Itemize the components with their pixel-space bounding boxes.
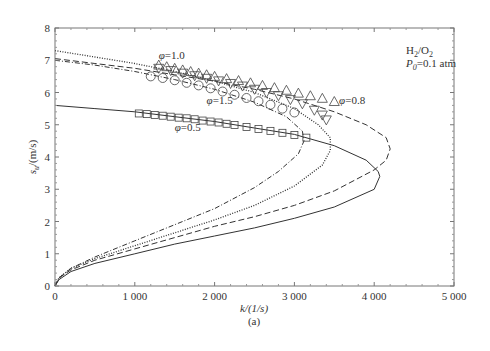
y-tick-label: 2	[45, 216, 51, 228]
annotation: P0=0.1 atm	[405, 57, 456, 72]
data-marker	[146, 72, 155, 81]
data-marker	[269, 83, 279, 92]
annotation: φ=1.5	[207, 94, 234, 106]
data-marker	[135, 110, 142, 117]
subtitle: (a)	[248, 315, 261, 328]
x-tick-label: 3 000	[282, 290, 307, 302]
y-tick-label: 4	[45, 151, 51, 163]
y-tick-label: 8	[45, 22, 51, 34]
annotation: φ=0.5	[175, 121, 202, 133]
x-tick-label: 4 000	[362, 290, 387, 302]
model-curve	[55, 51, 330, 286]
data-marker	[329, 97, 339, 106]
model-curve	[55, 105, 380, 286]
data-marker	[206, 84, 215, 93]
data-marker	[297, 100, 307, 109]
data-marker	[143, 111, 150, 118]
annotation: φ=0.8	[339, 94, 366, 106]
x-tick-label: 0	[52, 290, 58, 302]
y-tick-label: 3	[45, 183, 51, 195]
data-marker	[317, 93, 327, 102]
annotation: φ=1.0	[159, 49, 186, 61]
model-curve	[55, 60, 304, 286]
data-marker	[305, 91, 315, 100]
data-marker	[242, 93, 251, 102]
data-marker	[254, 97, 263, 106]
y-axis-title: su/(m/s)	[26, 139, 41, 174]
y-tick-label: 7	[45, 54, 51, 66]
axes-frame	[55, 28, 454, 286]
data-marker	[278, 104, 287, 113]
x-tick-label: 2 000	[202, 290, 227, 302]
data-marker	[321, 116, 331, 125]
model-curve	[55, 59, 390, 286]
y-tick-label: 5	[45, 119, 51, 131]
data-marker	[151, 112, 158, 119]
data-marker	[266, 100, 275, 109]
plot-area	[55, 51, 390, 286]
y-tick-label: 0	[45, 280, 51, 292]
y-tick-label: 1	[45, 248, 51, 260]
x-tick-label: 1 000	[122, 290, 147, 302]
x-tick-label: 5 000	[442, 290, 467, 302]
x-axis-title: k/(1/s)	[240, 302, 268, 315]
y-tick-label: 6	[45, 87, 51, 99]
data-marker	[194, 81, 203, 90]
chart: 01 0002 0003 0004 0005 000012345678 H2/O…	[0, 0, 490, 351]
